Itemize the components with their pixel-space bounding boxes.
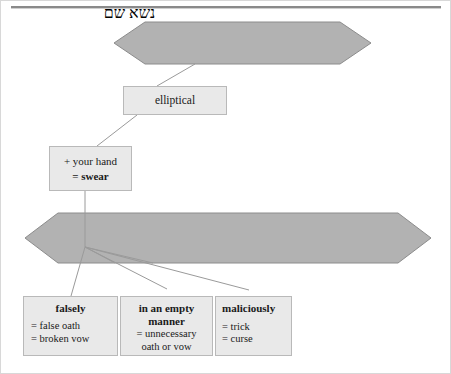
leaf-maliciously-heading: maliciously xyxy=(216,302,291,315)
node-swear-line2: = swear xyxy=(72,170,109,183)
connector-elliptical-to-swear xyxy=(97,115,137,146)
leaf-empty-manner-gloss-1: = unnecessary xyxy=(121,328,212,341)
leaf-node-maliciously[interactable]: maliciously = trick = curse xyxy=(215,296,292,356)
leaf-falsely-gloss-1: = false oath xyxy=(24,320,117,333)
node-elliptical-label: elliptical xyxy=(155,94,195,108)
leaf-maliciously-gloss-1: = trick xyxy=(216,321,291,334)
leaf-empty-manner-heading-line2: manner xyxy=(121,315,212,328)
diagram-canvas: נשׂא שם לשוא elliptical + your hand = sw… xyxy=(0,0,451,374)
leaf-falsely-heading: falsely xyxy=(24,302,117,315)
connector-hexagon-to-maliciously xyxy=(85,247,249,290)
connector-root-to-elliptical xyxy=(157,64,195,86)
leaf-maliciously-gloss-2: = curse xyxy=(216,333,291,346)
leaf-empty-manner-gloss-2: oath or vow xyxy=(121,341,212,354)
node-swear[interactable]: + your hand = swear xyxy=(49,146,132,191)
leaf-empty-manner-heading-line1: in an empty xyxy=(121,302,212,315)
connector-fan-inner-a xyxy=(85,247,153,263)
connector-hexagon-to-falsely xyxy=(71,247,85,296)
connector-fan-inner-b xyxy=(85,247,115,263)
leaf-node-empty-manner[interactable]: in an empty manner = unnecessary oath or… xyxy=(120,296,213,356)
leaf-node-falsely[interactable]: falsely = false oath = broken vow xyxy=(23,296,118,356)
node-swear-line1: + your hand xyxy=(64,155,117,168)
leaf-falsely-gloss-2: = broken vow xyxy=(24,333,117,346)
node-elliptical[interactable]: elliptical xyxy=(123,86,227,115)
